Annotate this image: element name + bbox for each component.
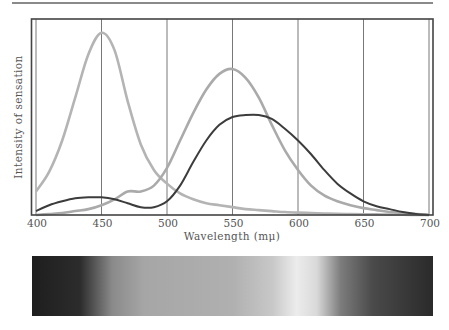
x-tick-label: 650 <box>354 217 374 229</box>
y-axis-title: Intensity of sensation <box>12 55 24 178</box>
x-tick-labels: 400450500550600650700 <box>27 217 440 229</box>
spectrum-bar <box>32 256 433 316</box>
x-tick-label: 400 <box>27 217 47 229</box>
x-tick-label: 450 <box>92 217 112 229</box>
x-tick-label: 550 <box>223 217 243 229</box>
x-tick-label: 700 <box>420 217 440 229</box>
x-tick-label: 500 <box>158 217 178 229</box>
x-tick-label: 600 <box>289 217 309 229</box>
x-axis-title: Wavelength (mμ) <box>184 230 281 242</box>
